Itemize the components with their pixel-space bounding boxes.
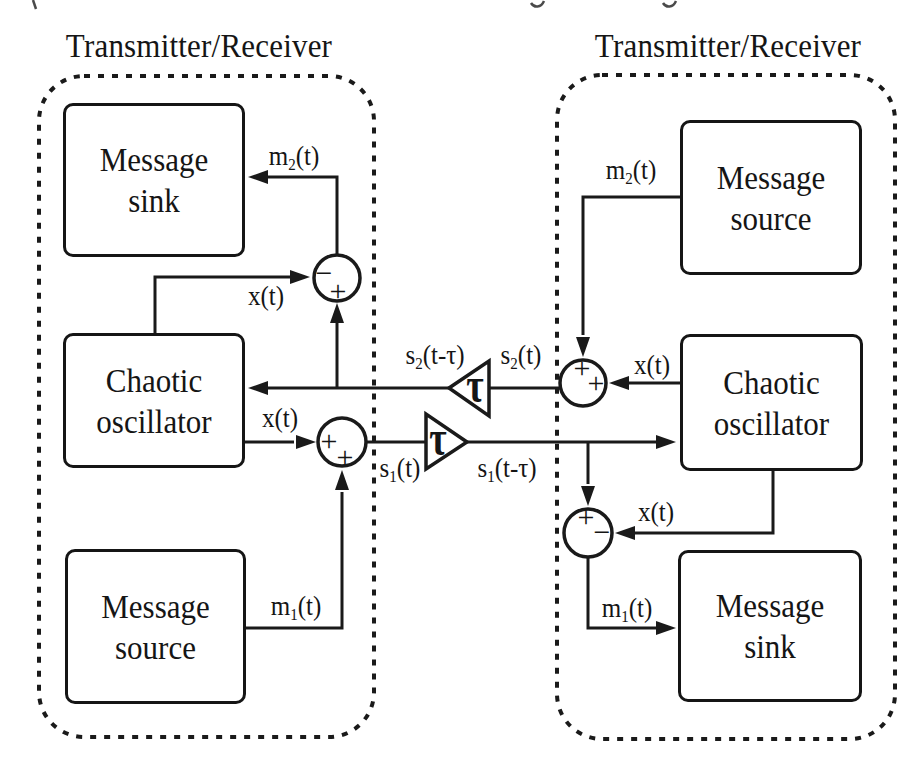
arrowhead-x-into-left-sum-top [290,270,310,284]
arrowhead-m1-into-left-sum-mid [335,470,349,490]
wire-m2-right-to-sum [583,197,680,335]
sum-sign-plus-left-mid-a: + [321,426,338,456]
scan-artifact [531,1,544,7]
label-s2: s2(t) [501,342,542,372]
label-s2-delayed: s2(t-τ) [405,342,464,372]
left-transceiver-title: Transmitter/Receiver [66,26,332,66]
arrowhead-into-left-sink [248,170,268,184]
left-message-sink-box: Message sink [63,103,245,257]
label-m1-left: m1(t) [271,593,322,623]
arrowhead-x-into-right-sum-bottom [615,526,635,540]
figure-canvas: Transmitter/Receiver Transmitter/Receive… [0,0,920,772]
label-s1-delayed: s1(t-τ) [477,455,536,485]
sum-sign-minus-right-bottom: − [594,517,611,547]
sum-sign-plus-right-top-b: + [588,368,605,398]
label-x-top-right: x(t) [634,352,670,382]
label-x-mid-left: x(t) [262,405,298,435]
label-m1-right: m1(t) [602,595,653,625]
sum-sign-plus-right-bottom: + [578,502,595,532]
arrowhead-x-into-left-sum-mid [296,435,316,449]
sum-sign-plus-left-mid-b: + [337,442,354,472]
scan-artifact [33,0,36,9]
label-x-top-left: x(t) [248,283,284,313]
right-message-sink-box: Message sink [678,550,862,702]
arrowhead-x-into-right-sum-top [609,376,629,390]
label-x-bottom-right: x(t) [638,499,674,529]
label-s1: s1(t) [380,455,421,485]
delay-tau-top: τ [466,361,483,411]
arrowhead-into-left-oscillator [248,381,268,395]
sum-sign-plus-left-top: + [330,276,347,306]
label-m2-left: m2(t) [269,143,320,173]
scan-artifact [663,1,676,7]
right-transceiver-title: Transmitter/Receiver [595,26,861,66]
arrowhead-into-right-oscillator [656,435,676,449]
arrowhead-into-right-sink [656,621,676,635]
right-chaotic-oscillator-box: Chaotic oscillator [680,334,863,471]
label-m2-right: m2(t) [606,157,657,187]
delay-tau-bottom: τ [429,414,446,464]
wire-m2-left-to-sink [268,177,337,255]
left-chaotic-oscillator-box: Chaotic oscillator [63,333,245,468]
left-message-source-box: Message source [65,549,246,704]
right-message-source-box: Message source [680,120,862,275]
